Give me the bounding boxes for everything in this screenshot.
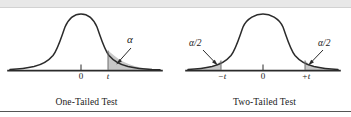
figure-panel: 0 t α −t 0 +t α/2 α/2 One-Tailed Test Tw… <box>0 0 351 117</box>
chart-one-caption: One-Tailed Test <box>0 97 173 107</box>
chart-one-alpha-label: α <box>127 33 133 45</box>
chart-two-tick-label-neg-t: −t <box>213 71 231 81</box>
chart-two-alpha-right-label: α/2 <box>318 38 330 48</box>
chart-one-tick-label-t: t <box>101 71 115 81</box>
chart-two-tailed <box>186 14 340 71</box>
chart-two-alpha-left-label: α/2 <box>189 38 201 48</box>
chart-one-curve <box>10 14 160 70</box>
chart-one-tailed <box>8 14 162 71</box>
chart-two-tick-label-pos-t: +t <box>297 71 315 81</box>
chart-two-curve <box>188 14 338 70</box>
bottom-divider-rule <box>0 111 351 112</box>
chart-two-tick-label-zero: 0 <box>255 71 271 81</box>
chart-two-caption: Two-Tailed Test <box>178 97 351 107</box>
chart-one-tick-label-zero: 0 <box>73 71 89 81</box>
